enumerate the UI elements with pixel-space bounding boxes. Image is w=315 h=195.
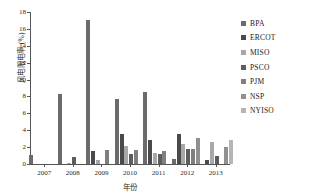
bar bbox=[120, 134, 124, 164]
x-axis-tick-label: 2013 bbox=[209, 169, 223, 177]
legend-swatch-icon bbox=[241, 79, 246, 84]
legend-label: NYISO bbox=[250, 106, 274, 115]
wind-curtailment-bar-chart: 风电限电率 (%) 年份 024681012141618200720082009… bbox=[0, 0, 315, 195]
bar bbox=[86, 20, 90, 164]
y-axis-tick-label: 0 bbox=[8, 160, 26, 168]
x-axis-title: 年份 bbox=[30, 181, 230, 192]
x-axis-tick-mark bbox=[101, 164, 102, 167]
bar bbox=[72, 157, 76, 164]
bar bbox=[67, 163, 71, 164]
y-axis-tick-mark bbox=[27, 164, 30, 165]
x-axis-tick-label: 2012 bbox=[180, 169, 194, 177]
bar bbox=[229, 140, 233, 164]
bar bbox=[205, 160, 209, 164]
x-axis-tick-mark bbox=[130, 164, 131, 167]
chart-legend: BPAERCOTMISOPSCOPJMNSPNYISO bbox=[241, 16, 313, 118]
legend-label: ERCOT bbox=[250, 33, 276, 42]
y-axis-tick-mark bbox=[27, 46, 30, 47]
bar bbox=[115, 99, 119, 164]
y-axis-tick-label: 2 bbox=[8, 143, 26, 151]
legend-item-pjm[interactable]: PJM bbox=[241, 74, 313, 89]
legend-item-ercot[interactable]: ERCOT bbox=[241, 31, 313, 46]
y-axis-tick-label: 8 bbox=[8, 92, 26, 100]
legend-swatch-icon bbox=[241, 50, 246, 55]
legend-label: BPA bbox=[250, 19, 265, 28]
y-axis-tick-mark bbox=[27, 113, 30, 114]
legend-item-bpa[interactable]: BPA bbox=[241, 16, 313, 31]
legend-swatch-icon bbox=[241, 35, 246, 40]
x-axis-tick-mark bbox=[216, 164, 217, 167]
bar bbox=[172, 159, 176, 164]
bar bbox=[129, 154, 133, 164]
legend-item-miso[interactable]: MISO bbox=[241, 45, 313, 60]
legend-swatch-icon bbox=[241, 21, 246, 26]
bar bbox=[210, 142, 214, 164]
bar bbox=[215, 156, 219, 164]
legend-swatch-icon bbox=[241, 94, 246, 99]
y-axis-tick-label: 4 bbox=[8, 126, 26, 134]
legend-label: NSP bbox=[250, 92, 264, 101]
bar bbox=[148, 140, 152, 164]
y-axis-tick-label: 10 bbox=[8, 76, 26, 84]
y-axis-tick-label: 12 bbox=[8, 59, 26, 67]
x-axis-tick-label: 2007 bbox=[37, 169, 51, 177]
y-axis-tick-label: 16 bbox=[8, 25, 26, 33]
legend-label: PJM bbox=[250, 77, 264, 86]
x-axis-tick-label: 2008 bbox=[66, 169, 80, 177]
x-axis-tick-mark bbox=[44, 164, 45, 167]
legend-label: PSCO bbox=[250, 63, 270, 72]
x-axis-tick-mark bbox=[73, 164, 74, 167]
bar bbox=[29, 155, 33, 164]
x-axis-tick-mark bbox=[159, 164, 160, 167]
y-axis-tick-mark bbox=[27, 80, 30, 81]
bar bbox=[224, 147, 228, 164]
bar bbox=[96, 160, 100, 164]
x-axis-tick-label: 2009 bbox=[94, 169, 108, 177]
bars-layer bbox=[31, 12, 230, 164]
y-axis-tick-label: 14 bbox=[8, 42, 26, 50]
bar bbox=[134, 150, 138, 164]
legend-swatch-icon bbox=[241, 108, 246, 113]
bar bbox=[124, 146, 128, 164]
y-axis-tick-mark bbox=[27, 130, 30, 131]
y-axis-tick-label: 6 bbox=[8, 109, 26, 117]
y-axis-tick-label: 18 bbox=[8, 8, 26, 16]
legend-swatch-icon bbox=[241, 65, 246, 70]
y-axis-tick-mark bbox=[27, 63, 30, 64]
legend-item-nsp[interactable]: NSP bbox=[241, 89, 313, 104]
bar bbox=[158, 154, 162, 164]
bar bbox=[186, 149, 190, 164]
bar bbox=[105, 150, 109, 164]
bar bbox=[177, 134, 181, 164]
y-axis-tick-mark bbox=[27, 96, 30, 97]
y-axis-tick-mark bbox=[27, 29, 30, 30]
bar bbox=[191, 149, 195, 164]
x-axis-tick-label: 2010 bbox=[123, 169, 137, 177]
plot-area: 0246810121416182007200820092010201120122… bbox=[30, 12, 230, 164]
bar bbox=[196, 138, 200, 164]
bar bbox=[91, 151, 95, 165]
y-axis-tick-mark bbox=[27, 12, 30, 13]
legend-item-psco[interactable]: PSCO bbox=[241, 60, 313, 75]
bar bbox=[181, 144, 185, 164]
legend-item-nyiso[interactable]: NYISO bbox=[241, 104, 313, 119]
bar bbox=[58, 94, 62, 164]
bar bbox=[143, 92, 147, 164]
x-axis-tick-label: 2011 bbox=[152, 169, 166, 177]
x-axis-tick-mark bbox=[187, 164, 188, 167]
y-axis-tick-mark bbox=[27, 147, 30, 148]
legend-label: MISO bbox=[250, 48, 270, 57]
bar bbox=[153, 153, 157, 164]
bar bbox=[162, 151, 166, 164]
